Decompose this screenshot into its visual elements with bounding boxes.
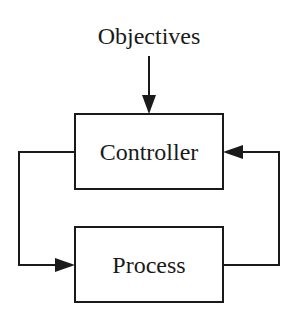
arrowhead-left-icon <box>223 145 243 159</box>
controller-label: Controller <box>75 138 223 166</box>
arrowhead-right-icon <box>55 258 75 272</box>
objectives-label: Objectives <box>75 22 223 50</box>
arrowhead-down-icon <box>142 95 156 114</box>
process-label: Process <box>75 251 223 279</box>
process-to-controller-line <box>223 152 279 265</box>
controller-to-process-line <box>19 152 75 265</box>
